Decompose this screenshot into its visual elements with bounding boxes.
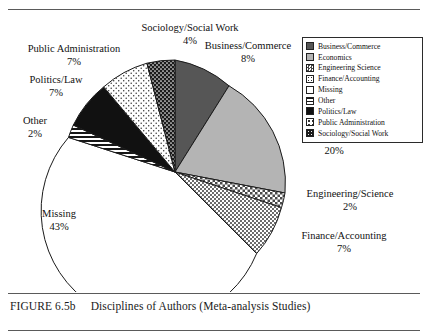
top-rule <box>8 9 420 10</box>
legend-item-finance-accounting[interactable]: Finance/Accounting <box>306 74 419 84</box>
legend-item-sociology-social-work[interactable]: Sociology/Social Work <box>306 128 419 138</box>
label-business-commerce: Business/Commerce 8% <box>186 40 310 65</box>
legend-item-other[interactable]: Other <box>306 95 419 105</box>
label-public-administration: Public Administration 7% <box>6 43 142 68</box>
legend-swatch-cross-dots-icon <box>306 129 314 137</box>
caption-top-rule <box>8 293 420 294</box>
legend-swatch-checker-icon <box>306 64 314 72</box>
legend-item-politics-law[interactable]: Politics/Law <box>306 106 419 116</box>
label-other: Other 2% <box>4 115 66 140</box>
legend-item-business-commerce[interactable]: Business/Commerce <box>306 41 419 51</box>
label-finance-accounting: Finance/Accounting 7% <box>274 230 414 255</box>
caption-bottom-rule <box>8 330 420 331</box>
figure-number: FIGURE 6.5b <box>10 300 76 312</box>
figure-container: Sociology/Social Work 4% Business/Commer… <box>0 0 428 333</box>
label-missing: Missing 43% <box>20 208 98 233</box>
legend-swatch-dark-gray-solid-icon <box>306 42 314 50</box>
pie-chart: Sociology/Social Work 4% Business/Commer… <box>0 12 428 292</box>
legend-swatch-horizontal-lines-icon <box>306 97 314 105</box>
label-politics-law: Politics/Law 7% <box>10 74 102 99</box>
legend-swatch-dotted-icon <box>306 75 314 83</box>
figure-title: Disciplines of Authors (Meta-analysis St… <box>91 300 311 312</box>
legend-swatch-black-solid-icon <box>306 107 314 115</box>
figure-caption: FIGURE 6.5b Disciplines of Authors (Meta… <box>10 300 420 312</box>
legend-swatch-white-icon <box>306 86 314 94</box>
legend-item-public-administration[interactable]: Public Administration <box>306 117 419 127</box>
legend-swatch-fine-dots-icon <box>306 118 314 126</box>
chart-legend: Business/Commerce Economics Engineering … <box>302 37 423 143</box>
legend-item-missing[interactable]: Missing <box>306 85 419 95</box>
label-engineering-science: Engineering/Science 2% <box>280 188 420 213</box>
legend-swatch-light-gray-solid-icon <box>306 53 314 61</box>
legend-item-engineering-science[interactable]: Engineering Science <box>306 63 419 73</box>
legend-item-economics[interactable]: Economics <box>306 52 419 62</box>
